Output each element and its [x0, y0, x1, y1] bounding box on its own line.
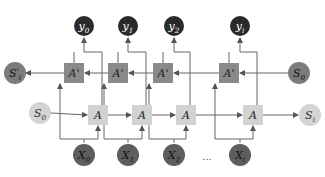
- bidirectional-rnn-diagram: y0y1y2yiA'A'A'A'AAAAX0X1X2XiS'iS0S0Si...: [0, 0, 325, 177]
- forward-cell-3-label: A: [248, 109, 257, 122]
- nodes: y0y1y2yiA'A'A'A'AAAAX0X1X2XiS'iS0S0Si...: [4, 16, 321, 166]
- edges: [26, 38, 298, 143]
- backward-cell-3-label: A': [223, 67, 235, 80]
- forward-cell-2-label: A: [181, 109, 190, 122]
- forward-cell-0-label: A: [93, 109, 102, 122]
- backward-cell-2-label: A': [157, 67, 169, 80]
- backward-cell-0-label: A': [68, 67, 80, 80]
- ellipsis: ...: [202, 151, 212, 162]
- backward-cell-1-label: A': [112, 67, 124, 80]
- forward-cell-1-label: A: [137, 109, 146, 122]
